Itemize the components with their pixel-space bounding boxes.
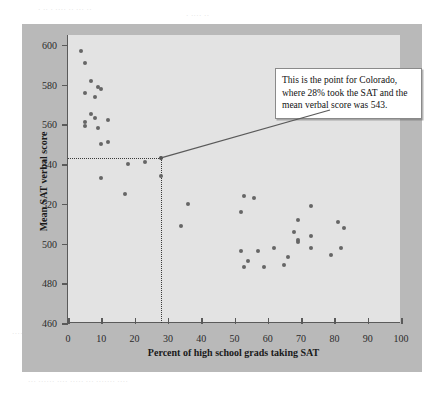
- data-point: [179, 224, 183, 228]
- data-point: [309, 204, 313, 208]
- data-point: [79, 49, 83, 53]
- data-point: [339, 246, 343, 250]
- data-point: [252, 196, 256, 200]
- data-point: [296, 218, 300, 222]
- x-tick-50: [235, 318, 237, 324]
- data-point: [309, 246, 313, 250]
- data-point: [83, 124, 87, 128]
- data-point: [126, 162, 130, 166]
- data-point: [89, 79, 93, 83]
- data-point: [106, 118, 110, 122]
- y-tick-460: [62, 323, 68, 325]
- reference-line-horizontal: [68, 158, 161, 159]
- colorado-callout: This is the point for Colorado, where 28…: [275, 68, 422, 119]
- x-tick-label-80: 80: [329, 333, 339, 344]
- x-tick-label-90: 90: [363, 333, 373, 344]
- data-point: [93, 95, 97, 99]
- data-point: [342, 226, 346, 230]
- x-tick-label-100: 100: [394, 333, 409, 344]
- y-tick-600: [62, 45, 68, 47]
- x-tick-label-50: 50: [230, 333, 240, 344]
- data-point: [246, 259, 250, 263]
- x-tick-60: [268, 318, 270, 324]
- x-tick-label-0: 0: [66, 333, 71, 344]
- x-tick-100: [401, 318, 403, 324]
- data-point: [93, 116, 97, 120]
- data-point: [106, 140, 110, 144]
- y-axis-title: Mean SAT verbal score: [38, 97, 49, 267]
- data-point: [239, 249, 243, 253]
- y-tick-480: [62, 283, 68, 285]
- y-tick-500: [62, 244, 68, 246]
- data-point-colorado: [159, 156, 164, 161]
- data-point: [282, 263, 286, 267]
- data-point: [242, 265, 246, 269]
- page-artifact-top-right: · ···· ··: [186, 12, 209, 20]
- y-tick-560: [62, 124, 68, 126]
- data-point: [186, 202, 190, 206]
- x-tick-90: [368, 318, 370, 324]
- y-tick-label-460: 460: [42, 318, 57, 329]
- data-point: [143, 160, 147, 164]
- reference-line-vertical: [161, 158, 162, 323]
- x-tick-80: [334, 318, 336, 324]
- data-point: [123, 192, 127, 196]
- data-point: [99, 87, 103, 91]
- data-point: [256, 249, 260, 253]
- colorado-callout-text: This is the point for Colorado, where 28…: [282, 74, 415, 112]
- x-tick-0: [68, 318, 70, 324]
- data-point: [83, 91, 87, 95]
- data-point: [329, 253, 333, 257]
- data-point: [336, 220, 340, 224]
- y-tick-label-580: 580: [42, 79, 57, 90]
- data-point: [159, 174, 163, 178]
- data-point: [286, 255, 290, 259]
- y-tick-label-600: 600: [42, 39, 57, 50]
- x-tick-label-10: 10: [96, 333, 106, 344]
- x-tick-label-70: 70: [296, 333, 306, 344]
- data-point: [83, 61, 87, 65]
- x-tick-30: [168, 318, 170, 324]
- x-tick-label-20: 20: [130, 333, 140, 344]
- x-tick-70: [301, 318, 303, 324]
- data-point: [296, 240, 300, 244]
- x-tick-40: [201, 318, 203, 324]
- data-point: [242, 194, 246, 198]
- x-tick-label-30: 30: [163, 333, 173, 344]
- x-tick-10: [101, 318, 103, 324]
- data-point: [292, 230, 296, 234]
- page-artifact-bottom: ··· ······ ···· ····· ··· ······· ····: [28, 378, 128, 386]
- y-tick-520: [62, 204, 68, 206]
- x-tick-20: [135, 318, 137, 324]
- data-point: [262, 265, 266, 269]
- figure-panel: 0102030405060708090100460480500520540560…: [22, 24, 422, 372]
- x-tick-label-40: 40: [196, 333, 206, 344]
- page-artifact-top-left: · ·· · ···· ·· ··· ··: [38, 6, 92, 14]
- x-tick-label-60: 60: [263, 333, 273, 344]
- y-tick-580: [62, 85, 68, 87]
- y-tick-label-480: 480: [42, 278, 57, 289]
- y-tick-540: [62, 164, 68, 166]
- data-point: [309, 234, 313, 238]
- data-point: [272, 246, 276, 250]
- data-point: [96, 126, 100, 130]
- data-point: [99, 142, 103, 146]
- data-point: [239, 210, 243, 214]
- x-axis-title: Percent of high school grads taking SAT: [67, 347, 400, 358]
- data-point: [99, 176, 103, 180]
